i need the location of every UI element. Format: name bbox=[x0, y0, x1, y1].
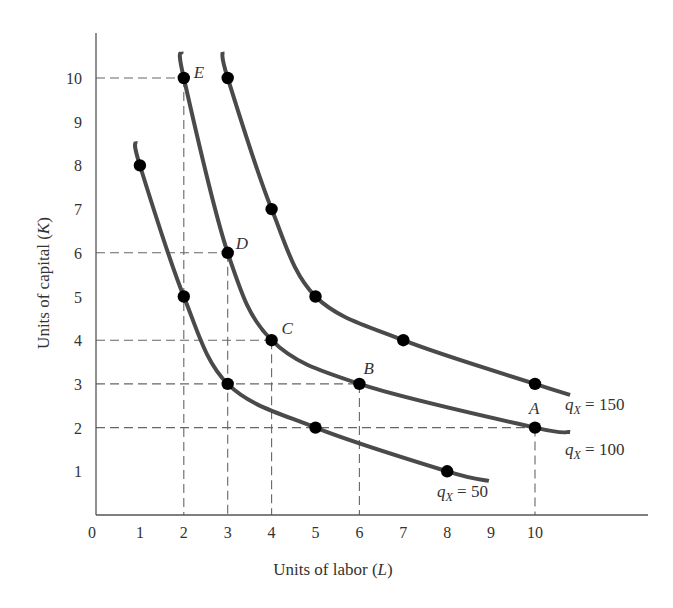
point-label-E: E bbox=[193, 63, 205, 82]
data-point bbox=[222, 247, 234, 259]
data-point bbox=[529, 378, 541, 390]
data-point bbox=[529, 421, 541, 433]
y-tick-2: 2 bbox=[74, 420, 82, 437]
y-tick-3: 3 bbox=[74, 376, 82, 393]
y-tick-10: 10 bbox=[66, 70, 82, 87]
y-tick-1: 1 bbox=[74, 463, 82, 480]
point-label-B: B bbox=[363, 359, 374, 378]
data-point bbox=[222, 378, 234, 390]
y-tick-8: 8 bbox=[74, 157, 82, 174]
x-tick-7: 7 bbox=[399, 524, 407, 541]
x-tick-9: 9 bbox=[487, 524, 495, 541]
isoquant-curves bbox=[135, 52, 570, 481]
data-point bbox=[265, 334, 277, 346]
y-tick-5: 5 bbox=[74, 289, 82, 306]
x-tick-0: 0 bbox=[88, 524, 96, 541]
y-axis-title: Units of capital (K) bbox=[34, 217, 53, 349]
data-point bbox=[265, 203, 277, 215]
data-point bbox=[309, 290, 321, 302]
data-point bbox=[309, 421, 321, 433]
y-tick-labels: 12345678910 bbox=[66, 70, 82, 480]
y-tick-9: 9 bbox=[74, 114, 82, 131]
x-tick-2: 2 bbox=[180, 524, 188, 541]
x-tick-10: 10 bbox=[527, 524, 543, 541]
isoquant-chart: 012345678910 12345678910 ABCDE qX = 50qX… bbox=[0, 0, 673, 608]
data-point bbox=[178, 72, 190, 84]
y-tick-7: 7 bbox=[74, 201, 82, 218]
data-point bbox=[353, 378, 365, 390]
x-tick-5: 5 bbox=[312, 524, 320, 541]
y-tick-4: 4 bbox=[74, 332, 82, 349]
x-tick-1: 1 bbox=[136, 524, 144, 541]
x-tick-8: 8 bbox=[443, 524, 451, 541]
curve-label-2: qX = 100 bbox=[565, 440, 624, 462]
x-tick-6: 6 bbox=[355, 524, 363, 541]
curve-label-3: qX = 150 bbox=[565, 395, 624, 417]
point-letter-labels: ABCDE bbox=[193, 63, 540, 418]
data-point bbox=[222, 72, 234, 84]
data-point bbox=[178, 290, 190, 302]
y-tick-6: 6 bbox=[74, 245, 82, 262]
point-label-D: D bbox=[235, 234, 249, 253]
x-tick-labels: 012345678910 bbox=[88, 524, 543, 541]
x-tick-3: 3 bbox=[224, 524, 232, 541]
point-label-A: A bbox=[528, 399, 540, 418]
curve-label-1: qX = 50 bbox=[437, 482, 488, 504]
point-label-C: C bbox=[282, 319, 294, 338]
x-tick-4: 4 bbox=[268, 524, 276, 541]
data-point bbox=[441, 465, 453, 477]
x-axis-title: Units of labor (L) bbox=[273, 560, 393, 579]
data-point bbox=[134, 159, 146, 171]
data-point bbox=[397, 334, 409, 346]
